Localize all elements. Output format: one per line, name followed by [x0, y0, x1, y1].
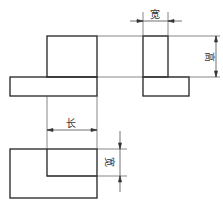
- side-base-block: [143, 77, 189, 96]
- height-label: 高: [204, 52, 216, 62]
- front-view: [10, 36, 97, 96]
- top-outer-outline: [10, 149, 97, 198]
- three-view-drawing: 宽 高 长 宽: [0, 0, 223, 212]
- front-upper-block: [47, 36, 97, 77]
- dimension-lines: [47, 20, 218, 193]
- side-view: [143, 36, 189, 96]
- width-label-side: 宽: [150, 8, 160, 20]
- side-upper-block: [143, 36, 168, 77]
- length-label: 长: [66, 118, 76, 129]
- top-view: [10, 149, 97, 198]
- top-inner-outline: [47, 149, 97, 176]
- width-label-top: 宽: [104, 157, 116, 167]
- front-base-block: [10, 77, 97, 96]
